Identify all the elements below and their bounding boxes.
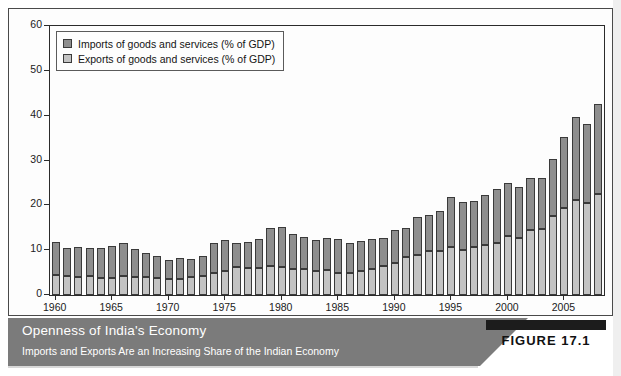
bar-segment-imports — [572, 117, 580, 200]
y-axis-tick-label: 0 — [36, 287, 42, 299]
bar-segment-imports — [538, 178, 546, 228]
figure-badge: FIGURE 17.1 — [486, 320, 606, 362]
bar-group[interactable] — [187, 259, 195, 295]
bar-group[interactable] — [119, 243, 127, 295]
bar-group[interactable] — [572, 117, 580, 295]
bar-segment-exports — [436, 251, 444, 295]
bar-group[interactable] — [232, 243, 240, 295]
bar-segment-exports — [63, 276, 71, 295]
bar-segment-exports — [278, 267, 286, 295]
y-axis-tick-label: 10 — [30, 242, 42, 254]
bar-group[interactable] — [594, 104, 602, 295]
bar-group[interactable] — [74, 247, 82, 295]
bar-group[interactable] — [165, 260, 173, 295]
figure-page: 0102030405060 19601965197019751980198519… — [0, 0, 621, 376]
x-axis-tick-mark — [563, 296, 564, 300]
x-axis-tick-mark — [224, 296, 225, 300]
bar-group[interactable] — [391, 230, 399, 295]
bar-group[interactable] — [346, 243, 354, 295]
bar-group[interactable] — [312, 240, 320, 295]
bar-group[interactable] — [255, 239, 263, 295]
x-axis-tick-mark — [111, 296, 112, 300]
y-axis-tick-label: 60 — [30, 18, 42, 30]
bar-group[interactable] — [153, 256, 161, 295]
x-axis-tick-label: 2000 — [495, 301, 518, 313]
bar-group[interactable] — [402, 228, 410, 295]
bar-segment-imports — [199, 256, 207, 276]
bar-segment-imports — [86, 248, 94, 276]
bar-group[interactable] — [515, 187, 523, 295]
bar-group[interactable] — [210, 243, 218, 295]
bar-group[interactable] — [379, 238, 387, 295]
bar-group[interactable] — [425, 215, 433, 295]
bar-group[interactable] — [108, 246, 116, 295]
bar-group[interactable] — [459, 202, 467, 295]
bar-segment-imports — [131, 249, 139, 277]
x-axis-tick-mark — [450, 296, 451, 300]
bar-segment-exports — [232, 267, 240, 295]
bar-group[interactable] — [368, 239, 376, 295]
bar-segment-imports — [526, 178, 534, 230]
bar-segment-imports — [425, 215, 433, 251]
bar-segment-imports — [142, 253, 150, 277]
figure-badge-bar — [486, 320, 606, 330]
legend-label-imports: Imports of goods and services (% of GDP) — [78, 38, 275, 50]
bar-group[interactable] — [289, 234, 297, 295]
figure-caption: Openness of India's Economy Imports and … — [8, 318, 613, 368]
bar-segment-exports — [413, 255, 421, 295]
bar-segment-exports — [481, 245, 489, 295]
caption-subtitle: Imports and Exports Are an Increasing Sh… — [22, 345, 339, 357]
bar-group[interactable] — [357, 241, 365, 295]
bar-segment-imports — [108, 246, 116, 278]
bar-group[interactable] — [334, 239, 342, 295]
bar-segment-exports — [560, 208, 568, 295]
x-axis-tick-label: 1960 — [43, 301, 66, 313]
bar-group[interactable] — [549, 159, 557, 295]
bar-group[interactable] — [504, 183, 512, 295]
bar-segment-exports — [470, 247, 478, 295]
bar-group[interactable] — [221, 240, 229, 295]
bar-segment-exports — [210, 273, 218, 295]
bar-segment-imports — [312, 240, 320, 271]
bar-group[interactable] — [583, 124, 591, 295]
bar-group[interactable] — [447, 197, 455, 295]
bar-group[interactable] — [199, 256, 207, 295]
bar-group[interactable] — [470, 201, 478, 295]
bar-group[interactable] — [481, 195, 489, 295]
bar-segment-exports — [538, 229, 546, 295]
bar-group[interactable] — [176, 258, 184, 295]
x-axis-tick-mark — [168, 296, 169, 300]
bar-group[interactable] — [131, 249, 139, 295]
bar-segment-imports — [63, 248, 71, 276]
bar-segment-exports — [459, 250, 467, 295]
bar-group[interactable] — [436, 211, 444, 295]
bar-segment-exports — [391, 263, 399, 295]
x-axis-tick-label: 1980 — [269, 301, 292, 313]
bar-group[interactable] — [300, 237, 308, 295]
bar-group[interactable] — [97, 248, 105, 295]
imports-swatch-icon — [63, 39, 72, 48]
bar-group[interactable] — [323, 238, 331, 295]
bar-group[interactable] — [538, 178, 546, 295]
bar-group[interactable] — [244, 242, 252, 295]
x-axis-tick-label: 1975 — [213, 301, 236, 313]
bar-group[interactable] — [142, 253, 150, 295]
bar-group[interactable] — [493, 189, 501, 295]
bar-group[interactable] — [86, 248, 94, 295]
bar-group[interactable] — [278, 227, 286, 295]
bar-segment-imports — [368, 239, 376, 270]
bar-group[interactable] — [266, 228, 274, 295]
bar-group[interactable] — [526, 178, 534, 295]
bar-segment-imports — [255, 239, 263, 268]
bar-group[interactable] — [560, 137, 568, 295]
x-axis-tick-label: 1985 — [326, 301, 349, 313]
bar-group[interactable] — [413, 217, 421, 295]
bar-segment-exports — [504, 236, 512, 295]
figure-badge-label: FIGURE 17.1 — [486, 333, 606, 348]
bar-group[interactable] — [63, 247, 71, 295]
bar-segment-imports — [549, 159, 557, 216]
x-axis-tick-label: 1995 — [439, 301, 462, 313]
exports-swatch-icon — [63, 54, 72, 63]
bar-group[interactable] — [52, 242, 60, 295]
bar-segment-imports — [74, 247, 82, 277]
